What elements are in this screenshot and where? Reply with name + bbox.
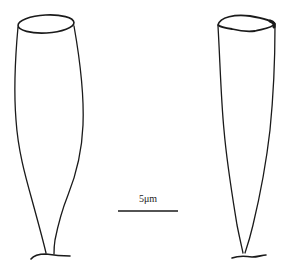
specimen-right-right-wall <box>245 26 275 253</box>
specimen-right-base <box>232 255 266 258</box>
specimen-left-aperture <box>18 14 75 35</box>
specimen-left <box>15 14 83 259</box>
specimen-right <box>218 15 275 258</box>
specimen-left-right-wall <box>54 26 83 254</box>
scale-bar-label: 5μm <box>118 193 178 204</box>
specimen-right-aperture <box>218 15 275 31</box>
specimen-left-base <box>31 254 70 259</box>
figure-canvas: 5μm <box>0 0 286 269</box>
specimen-right-left-wall <box>218 26 243 253</box>
specimen-left-left-wall <box>15 27 46 253</box>
